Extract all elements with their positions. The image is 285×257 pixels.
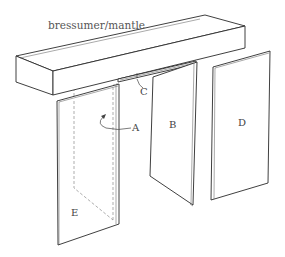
panel-e [57,84,119,245]
label-d: D [238,118,246,128]
label-a: A [132,123,139,133]
label-b: B [169,120,176,130]
beam-title-label: bressumer/mantle [48,20,145,31]
label-e: E [71,208,78,218]
label-c: C [140,87,148,97]
panel-b [150,62,197,206]
diagram-canvas: bressumer/mantle C A B D E [0,0,285,257]
diagram-drawing [0,0,285,257]
